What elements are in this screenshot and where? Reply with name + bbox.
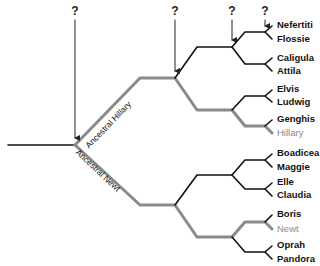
question-mark-node-2: ? [171, 5, 178, 17]
question-mark-node-3: ? [228, 5, 235, 17]
leaf-caligula: Caligula [277, 53, 314, 63]
leaf-boris: Boris [277, 209, 301, 219]
question-mark-root: ? [71, 5, 78, 17]
leaf-oprah: Oprah [277, 240, 305, 250]
leaf-attila: Attila [277, 66, 301, 76]
leaf-hillary: Hillary [277, 128, 303, 138]
leaf-flossie: Flossie [277, 34, 310, 44]
leaf-pandora: Pandora [277, 254, 315, 264]
question-mark-node-4: ? [261, 5, 268, 17]
tree-diagram [0, 0, 320, 266]
lower-clade-branches [175, 154, 272, 259]
leaf-boadicea: Boadicea [277, 148, 319, 158]
leaf-newt: Newt [277, 224, 299, 234]
newt-lineage [75, 145, 272, 237]
leaf-elvis: Elvis [277, 84, 299, 94]
leaf-genghis: Genghis [277, 114, 315, 124]
leaf-nefertiti: Nefertiti [277, 20, 313, 30]
leaf-claudia: Claudia [277, 190, 311, 200]
leaf-ludwig: Ludwig [277, 97, 310, 107]
leaf-maggie: Maggie [277, 162, 310, 172]
leaf-elle: Elle [277, 177, 294, 187]
